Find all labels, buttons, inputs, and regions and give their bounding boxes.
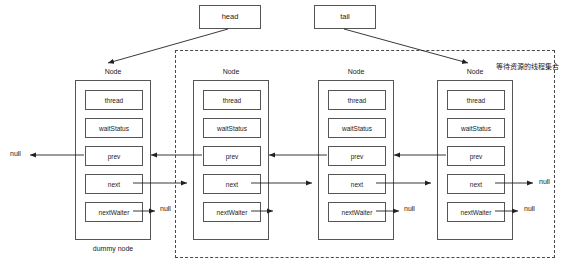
node-0-field-waitstatus: waitStatus xyxy=(85,118,143,138)
node-0-field-nextwaiter: nextWaiter xyxy=(85,202,143,222)
node-0-field-thread: thread xyxy=(85,90,143,110)
node-3-field-waitstatus: waitStatus xyxy=(447,118,505,138)
null-label-node2-waiter: null xyxy=(404,205,415,212)
node-0-field-next: next xyxy=(85,174,143,194)
node-caption-3: Node xyxy=(437,68,513,75)
node-caption-2: Node xyxy=(318,68,394,75)
null-label-node3-waiter: null xyxy=(524,205,535,212)
node-caption-1: Node xyxy=(193,68,269,75)
node-2-field-prev: prev xyxy=(328,146,386,166)
null-label-head-prev: null xyxy=(10,150,21,157)
null-label-node3-next: null xyxy=(539,178,550,185)
node-3-field-prev: prev xyxy=(447,146,505,166)
node-3-field-next: next xyxy=(447,174,505,194)
head-pointer-box[interactable]: head xyxy=(199,5,261,29)
node-1-field-nextwaiter: nextWaiter xyxy=(203,202,261,222)
node-1-field-thread: thread xyxy=(203,90,261,110)
node-2-field-waitstatus: waitStatus xyxy=(328,118,386,138)
node-2-field-nextwaiter: nextWaiter xyxy=(328,202,386,222)
node-box-1[interactable]: thread waitStatus prev next nextWaiter xyxy=(193,80,269,240)
node-1-field-next: next xyxy=(203,174,261,194)
node-3-field-thread: thread xyxy=(447,90,505,110)
node-box-3[interactable]: thread waitStatus prev next nextWaiter xyxy=(437,80,513,240)
node-3-field-nextwaiter: nextWaiter xyxy=(447,202,505,222)
node-box-0[interactable]: thread waitStatus prev next nextWaiter xyxy=(75,80,151,240)
node-box-2[interactable]: thread waitStatus prev next nextWaiter xyxy=(318,80,394,240)
null-label-node0-waiter: null xyxy=(160,205,171,212)
node-2-field-thread: thread xyxy=(328,90,386,110)
node-0-field-prev: prev xyxy=(85,146,143,166)
diagram-canvas: 等待资源的线程集合 head tail Node thread waitStat… xyxy=(0,0,574,270)
node-1-field-waitstatus: waitStatus xyxy=(203,118,261,138)
node-2-field-next: next xyxy=(328,174,386,194)
tail-pointer-box[interactable]: tail xyxy=(314,5,376,29)
node-1-field-prev: prev xyxy=(203,146,261,166)
node-caption-0: Node xyxy=(75,68,151,75)
dummy-node-caption: dummy node xyxy=(75,245,151,252)
